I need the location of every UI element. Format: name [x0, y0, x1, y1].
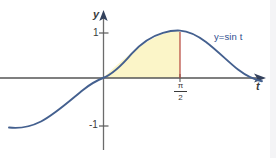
sine-plot-svg: [0, 0, 276, 158]
tick-label-positive-one: 1: [93, 28, 99, 38]
pi-over-two-numerator: π: [173, 82, 188, 91]
y-axis-label: y: [93, 9, 99, 20]
right-edge-band: [270, 0, 276, 158]
curve-equation-label: y=sin t: [214, 32, 242, 42]
sine-curve-figure: y t 1 -1 π 2 y=sin t: [0, 0, 276, 158]
tick-label-negative-one: -1: [89, 120, 98, 130]
sine-curve-path: [9, 31, 262, 128]
pi-over-two-denominator: 2: [173, 92, 188, 102]
t-axis-label: t: [256, 81, 260, 92]
tick-label-pi-over-two: π 2: [173, 82, 188, 102]
